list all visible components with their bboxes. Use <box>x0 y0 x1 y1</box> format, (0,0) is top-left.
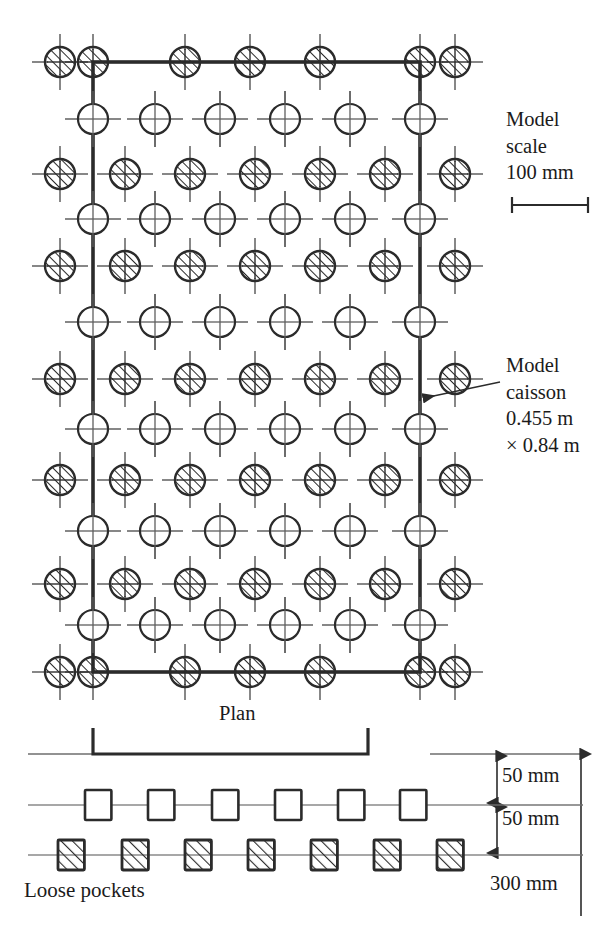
pocket-symbol-layer <box>58 790 463 870</box>
model-scale-value: 100 mm <box>506 159 574 186</box>
pile-symbol-layer <box>45 47 470 687</box>
open-square-icon <box>400 790 426 820</box>
model-scale-line1: Model <box>506 106 574 133</box>
model-caisson-width: 0.455 m <box>506 405 580 432</box>
open-square-icon <box>212 790 238 820</box>
hatched-square-icon <box>122 840 148 870</box>
plan-caption: Plan <box>219 700 255 727</box>
open-square-icon <box>275 790 301 820</box>
section-view <box>28 728 583 870</box>
hatched-square-icon <box>311 840 337 870</box>
model-caisson-line1: Model <box>506 352 580 379</box>
open-square-icon <box>148 790 174 820</box>
dimension-label-300mm: 300 mm <box>490 870 558 897</box>
hatched-square-icon <box>58 840 84 870</box>
hatched-square-icon <box>374 840 400 870</box>
dimension-label-lower-50mm: 50 mm <box>502 805 560 832</box>
open-square-icon <box>338 790 364 820</box>
figure-root: Model scale 100 mm Model caisson 0.455 m… <box>0 0 613 940</box>
hatched-square-icon <box>248 840 274 870</box>
model-caisson-length: × 0.84 m <box>506 432 580 459</box>
plan-view <box>32 34 500 700</box>
model-scale-annotation: Model scale 100 mm <box>506 106 574 186</box>
model-caisson-line2: caisson <box>506 379 580 406</box>
caisson-width-bracket <box>93 728 368 754</box>
dimension-label-upper-50mm: 50 mm <box>502 762 560 789</box>
loose-pockets-caption: Loose pockets <box>24 877 145 904</box>
model-scale-line2: scale <box>506 133 574 160</box>
hatched-square-icon <box>185 840 211 870</box>
model-caisson-annotation: Model caisson 0.455 m × 0.84 m <box>506 352 580 459</box>
model-scale-bar <box>512 197 588 213</box>
hatched-square-icon <box>437 840 463 870</box>
open-square-icon <box>85 790 111 820</box>
